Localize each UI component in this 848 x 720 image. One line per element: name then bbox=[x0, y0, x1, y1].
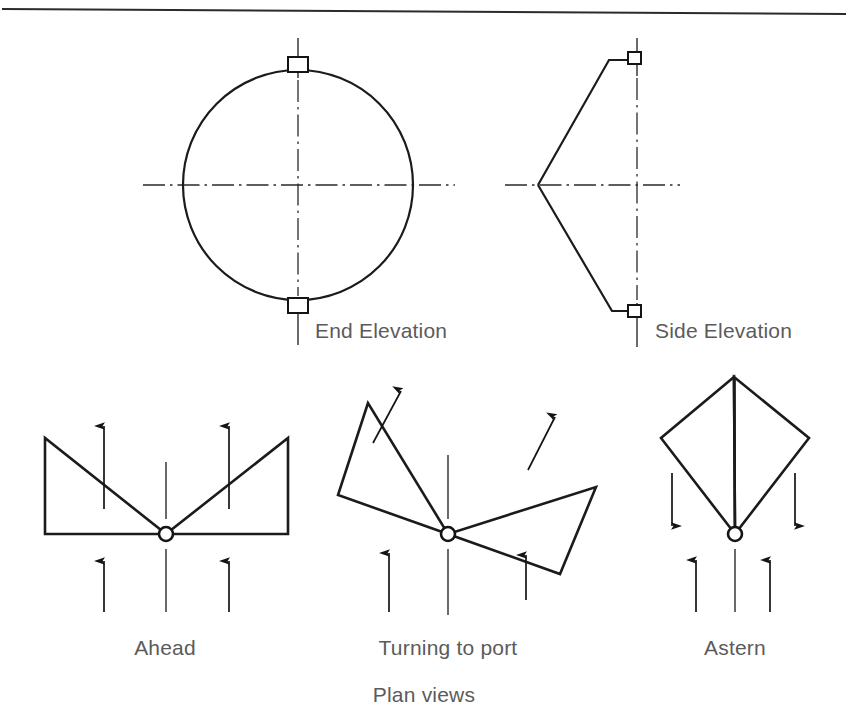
turning-to-port-blade-port bbox=[338, 403, 448, 534]
ahead-pivot-hub bbox=[159, 527, 173, 541]
plan-view-ahead-group: Ahead bbox=[45, 426, 288, 659]
end-elevation-top-fitting bbox=[288, 57, 308, 72]
side-elevation-wedge-lower bbox=[538, 185, 637, 311]
side-elevation-group: Side Elevation bbox=[505, 38, 792, 347]
side-elevation-wedge-upper bbox=[538, 60, 637, 185]
ahead-blade-starboard bbox=[166, 438, 288, 534]
figure-caption: Plan views bbox=[373, 683, 475, 706]
astern-blade-starboard bbox=[734, 377, 809, 534]
turning-to-port-label: Turning to port bbox=[379, 636, 518, 659]
end-elevation-bottom-fitting bbox=[288, 298, 308, 313]
technical-drawing-canvas: End Elevation Side Elevation A bbox=[0, 0, 848, 720]
side-elevation-bottom-fitting bbox=[628, 305, 641, 317]
plan-view-astern-group: Astern bbox=[661, 377, 809, 659]
ahead-label: Ahead bbox=[134, 636, 196, 659]
ahead-blade-port bbox=[45, 438, 166, 534]
astern-pivot-hub bbox=[728, 527, 742, 541]
turning-to-port-pivot-hub bbox=[441, 527, 455, 541]
plan-view-turning-to-port-group: Turning to port bbox=[338, 391, 596, 659]
page-top-rule bbox=[2, 9, 846, 14]
side-elevation-top-fitting bbox=[628, 52, 641, 64]
side-elevation-label: Side Elevation bbox=[655, 319, 792, 342]
end-elevation-label: End Elevation bbox=[315, 319, 447, 342]
figure-root: End Elevation Side Elevation A bbox=[0, 0, 848, 720]
astern-label: Astern bbox=[704, 636, 766, 659]
turning-to-port-blade-starboard bbox=[448, 487, 596, 574]
end-elevation-group: End Elevation bbox=[143, 38, 455, 345]
turning-to-port-thrust-arrow-upper-right bbox=[528, 417, 555, 470]
